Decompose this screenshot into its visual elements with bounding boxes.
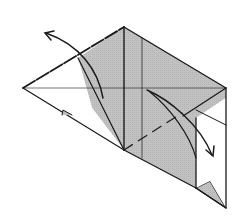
- diagram-canvas: [0, 0, 237, 220]
- origami-diagram: [0, 0, 237, 220]
